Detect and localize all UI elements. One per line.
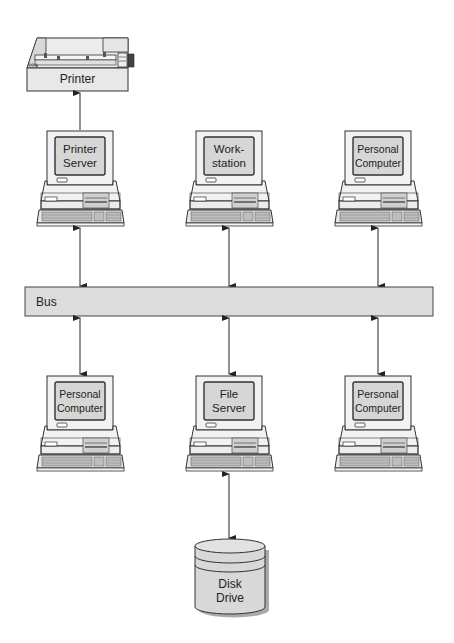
label-line2: Server <box>212 401 246 416</box>
printer-label: Printer <box>27 72 128 86</box>
label-line1: Work- <box>214 142 244 157</box>
label-line2: station <box>212 156 246 171</box>
personal-computer-bottom-right-label: Personal Computer <box>353 382 403 420</box>
label-line2: Computer <box>355 156 401 171</box>
workstation-label: Work- station <box>204 137 254 175</box>
personal-computer-top-label: Personal Computer <box>353 137 403 175</box>
file-server-label: File Server <box>204 382 254 420</box>
printer-server-label: Printer Server <box>55 137 105 175</box>
label-line2: Computer <box>57 401 103 416</box>
label-line2: Drive <box>216 591 244 606</box>
disk-drive-label: Disk Drive <box>195 574 265 608</box>
label-line2: Server <box>63 156 97 171</box>
diagram-canvas <box>0 0 454 643</box>
bus-label: Bus <box>36 295 76 309</box>
personal-computer-bottom-left-label: Personal Computer <box>55 382 105 420</box>
label-line2: Computer <box>355 401 401 416</box>
label-line1: File <box>220 387 239 402</box>
label-line1: Personal <box>357 142 398 157</box>
label-line1: Personal <box>59 387 100 402</box>
bus-bar <box>25 287 433 316</box>
label-line1: Disk <box>218 577 241 592</box>
label-line1: Printer <box>63 142 97 157</box>
label-line1: Personal <box>357 387 398 402</box>
